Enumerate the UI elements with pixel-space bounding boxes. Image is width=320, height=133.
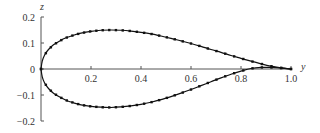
data-marker: [40, 68, 42, 70]
data-marker: [242, 58, 244, 60]
upper-surface-line: [41, 30, 291, 69]
data-marker: [233, 55, 235, 57]
data-marker: [143, 32, 145, 34]
data-marker: [77, 33, 79, 35]
data-marker: [50, 90, 52, 92]
data-marker: [45, 52, 47, 54]
z-tick-label: −0.2: [17, 116, 35, 127]
y-tick-label: 0.4: [135, 73, 148, 84]
data-marker: [174, 38, 176, 40]
z-axis-label: z: [39, 1, 44, 12]
data-marker: [158, 34, 160, 36]
y-tick-label: 0.8: [235, 73, 248, 84]
data-marker: [182, 40, 184, 42]
data-marker: [251, 67, 253, 69]
data-marker: [122, 29, 124, 31]
data-marker: [150, 33, 152, 35]
y-axis-label: y: [300, 61, 306, 72]
z-tick-label: −0.1: [17, 90, 35, 101]
data-marker: [207, 47, 209, 49]
data-marker: [129, 30, 131, 32]
data-marker: [224, 75, 226, 77]
data-marker: [198, 45, 200, 47]
data-marker: [190, 88, 192, 90]
data-marker: [55, 94, 57, 96]
y-tick-label: 1.0: [285, 73, 298, 84]
data-marker: [95, 106, 97, 108]
data-marker: [95, 30, 97, 32]
data-marker: [71, 101, 73, 103]
data-marker: [108, 29, 110, 31]
data-marker: [102, 29, 104, 31]
data-marker: [45, 84, 47, 86]
data-marker: [60, 97, 62, 99]
data-marker: [66, 36, 68, 38]
data-marker: [136, 31, 138, 33]
data-marker: [190, 42, 192, 44]
lower-surface-line: [41, 67, 291, 107]
data-marker: [251, 60, 253, 62]
data-marker: [215, 50, 217, 52]
data-marker: [174, 94, 176, 96]
data-marker: [215, 78, 217, 80]
data-marker: [115, 29, 117, 31]
data-marker: [89, 105, 91, 107]
data-marker: [207, 82, 209, 84]
data-marker: [115, 106, 117, 108]
data-marker: [182, 91, 184, 93]
data-marker: [122, 106, 124, 108]
data-marker: [242, 69, 244, 71]
data-marker: [50, 46, 52, 48]
data-marker: [136, 104, 138, 106]
data-marker: [83, 104, 85, 106]
y-tick-label: 0.6: [185, 73, 198, 84]
data-marker: [158, 99, 160, 101]
z-tick-label: 0: [30, 64, 35, 75]
z-tick-label: 0.1: [23, 38, 36, 49]
data-marker: [224, 52, 226, 54]
data-marker: [150, 101, 152, 103]
data-marker: [166, 97, 168, 99]
data-marker: [77, 103, 79, 105]
data-marker: [83, 31, 85, 33]
data-marker: [89, 30, 91, 32]
data-marker: [261, 63, 263, 65]
data-marker: [55, 42, 57, 44]
data-marker: [280, 67, 282, 69]
data-marker: [66, 99, 68, 101]
data-marker: [102, 106, 104, 108]
data-marker: [143, 103, 145, 105]
data-marker: [198, 85, 200, 87]
data-marker: [166, 36, 168, 38]
y-tick-label: 0.2: [85, 73, 98, 84]
data-marker: [60, 39, 62, 41]
data-marker: [71, 34, 73, 36]
data-marker: [290, 68, 292, 70]
airfoil-profile-chart: 0.20.10−0.1−0.20.20.40.60.81.0zy: [0, 0, 320, 133]
data-marker: [129, 105, 131, 107]
data-marker: [270, 66, 272, 68]
data-marker: [261, 66, 263, 68]
z-tick-label: 0.2: [23, 12, 36, 23]
data-marker: [108, 106, 110, 108]
